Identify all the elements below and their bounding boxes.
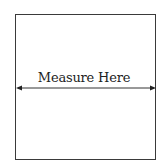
double-arrow-icon xyxy=(0,0,168,162)
